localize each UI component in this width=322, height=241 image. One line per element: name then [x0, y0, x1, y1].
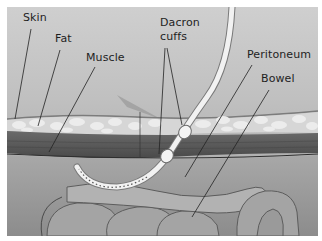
- label-peritoneum: Peritoneum: [247, 49, 311, 60]
- label-skin: Skin: [23, 12, 47, 23]
- label-bowel: Bowel: [261, 73, 295, 84]
- label-cuffs: cuffs: [160, 31, 187, 42]
- label-muscle: Muscle: [86, 52, 125, 63]
- label-fat: Fat: [55, 33, 72, 44]
- diagram-frame: Skin Fat Muscle Dacron cuffs Peritoneum …: [7, 7, 318, 236]
- label-dacron: Dacron: [160, 17, 200, 28]
